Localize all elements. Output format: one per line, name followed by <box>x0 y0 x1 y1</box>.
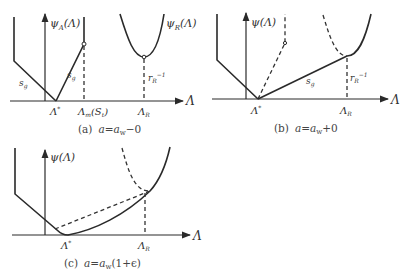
x-axis-label: Λ <box>192 229 202 243</box>
tick-Lambda-star: Λ* <box>250 104 261 116</box>
psi-R-solid-part <box>347 14 371 56</box>
x-axis-label: Λ <box>390 93 400 107</box>
tick-Lambda-R: ΛR <box>137 240 150 252</box>
x-axis-label: Λ <box>185 94 195 108</box>
psi-R-curve <box>120 14 164 57</box>
tick-Lambda-m: Λm(St) <box>77 106 108 118</box>
panel-b: ψ(Λ) Λ sg rR−1 Λ* ΛR (b)a=aw+0 <box>212 13 400 136</box>
psi-R-min-marker <box>142 55 146 59</box>
y-axis-label: ψ(Λ) <box>50 151 75 164</box>
tick-Lambda-R: ΛR <box>137 106 150 118</box>
psi-R-dashed-curve <box>122 148 148 191</box>
tick-Lambda-star: Λ* <box>49 105 60 117</box>
panel-c: ψ(Λ) Λ Λ* ΛR (c)a=aw(1+ϵ) <box>12 147 202 271</box>
panel-a: ψA(Λ) ψR(Λ) Λ sg sg rR−1 Λ* Λm(St) ΛR (a… <box>10 14 196 137</box>
tick-Lambda-R: ΛR <box>339 105 352 117</box>
tangent-segment <box>258 56 347 99</box>
caption-c: (c)a=aw(1+ϵ) <box>64 257 141 271</box>
slope-label-left: sg <box>19 78 28 90</box>
slope-label: sg <box>306 76 315 88</box>
tick-Lambda-star: Λ* <box>60 239 71 251</box>
caption-b: (b)a=aw+0 <box>274 122 338 136</box>
psi-R-label: ψR(Λ) <box>166 17 196 32</box>
psi-R-dashed-part <box>323 15 347 56</box>
caption-a: (a)a=aw−0 <box>78 123 141 137</box>
y-axis-label: ψ(Λ) <box>251 16 276 29</box>
figure-canvas: ψA(Λ) ψR(Λ) Λ sg sg rR−1 Λ* Λm(St) ΛR (a… <box>0 0 406 278</box>
rR-inverse-label: rR−1 <box>350 71 368 84</box>
rR-inverse-label: rR−1 <box>148 71 166 84</box>
y-axis-label: ψA(Λ) <box>50 17 80 32</box>
endpoint-marker <box>82 42 86 46</box>
slope-label-right: sg <box>67 70 76 82</box>
endpoint-marker <box>283 41 286 44</box>
